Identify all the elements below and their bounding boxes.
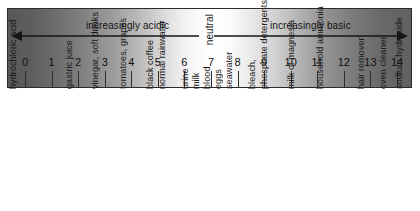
substance-label-tomatoes-grapes: tomatoes, grapes (119, 18, 128, 89)
substance-label-gastric-juice: gastric juice (65, 40, 74, 89)
ph-number-8: 8 (235, 56, 241, 68)
substance-label-seawater: seawater (225, 52, 234, 89)
ph-number-1: 1 (49, 56, 55, 68)
substance-labels: hydrochloric acidgastric juicevinegar, s… (0, 89, 420, 211)
substance-label-hair-remover: hair remover (357, 37, 366, 89)
tick-0 (25, 71, 26, 88)
ph-number-3: 3 (102, 56, 108, 68)
ph-number-0: 0 (22, 56, 28, 68)
substance-label-household-ammonia: household ammonia (316, 6, 325, 89)
tick-1 (52, 71, 53, 88)
substance-label-oven-cleaner: oven cleaner (379, 36, 388, 89)
substance-label-hydrochloric-acid: hydrochloric acid (9, 20, 18, 89)
ph-scale-figure: increasingly acidic increasingly basic n… (0, 0, 420, 211)
ph-number-2: 2 (75, 56, 81, 68)
substance-label-bleach: bleach, (248, 59, 257, 89)
substance-label-milk: milk (192, 73, 201, 89)
tick-13 (370, 71, 371, 88)
tick-12 (344, 71, 345, 88)
substance-label-phosphate-detergents: phosphate detergents (260, 0, 269, 89)
ph-number-6: 6 (181, 56, 187, 68)
tick-4 (131, 71, 132, 88)
ph-number-12: 12 (338, 56, 350, 68)
substance-label-normal-rainwater: normal rainwater (158, 20, 167, 89)
substance-label-vinegar-soft-drinks: vinegar, soft drinks (91, 12, 100, 89)
substance-label-milk-of-magnesia: milk of magnesia (287, 20, 296, 89)
substance-label-black-coffee: black coffee (146, 40, 155, 89)
band-label-basic: increasingly basic (270, 20, 351, 31)
tick-2 (78, 71, 79, 88)
substance-label-eggs: eggs (214, 69, 223, 89)
ph-number-4: 4 (128, 56, 134, 68)
band-label-neutral: neutral (204, 14, 215, 45)
substance-label-sodium-hydroxide: sodium hydroxide (395, 17, 404, 89)
tick-3 (105, 71, 106, 88)
substance-label-urine: urine (181, 68, 190, 89)
ph-number-13: 13 (364, 56, 376, 68)
substance-label-blood: blood (203, 66, 212, 89)
tick-8 (238, 71, 239, 88)
